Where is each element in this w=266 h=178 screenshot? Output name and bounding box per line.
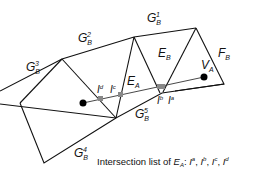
label-ic: Ic — [110, 84, 116, 95]
label-ib: Ib — [157, 95, 164, 106]
label-g2: GB2 — [78, 31, 92, 46]
intersection-ic-marker — [118, 92, 123, 97]
caption: Intersection list of EA: Ia, Ib, Ic, Id — [97, 156, 229, 168]
label-eb: EB — [158, 46, 171, 61]
intersection-id-marker — [98, 96, 103, 101]
label-id: Id — [97, 84, 104, 95]
label-g4: GB4 — [74, 146, 88, 161]
label-fb: FB — [218, 46, 230, 61]
intersection-ib-ia-marker — [157, 84, 165, 89]
edge — [62, 59, 116, 118]
mesh-edges — [0, 28, 224, 163]
left-vertex — [80, 100, 87, 107]
mesh-diagram: GB2 GB1 GB3 GB4 GB5 EA EB FB VA Id Ic Ib… — [0, 0, 266, 178]
vertex-va — [201, 74, 208, 81]
label-g5: GB5 — [135, 107, 149, 122]
label-g1: GB1 — [147, 11, 161, 26]
label-ea: EA — [127, 74, 140, 89]
label-ia: Ia — [168, 95, 175, 106]
label-g3: GB3 — [26, 60, 40, 75]
